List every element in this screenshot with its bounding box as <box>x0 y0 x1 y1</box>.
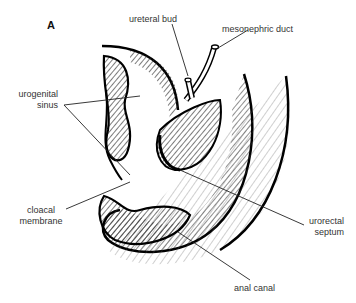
label-urogenital-sinus: urogenital sinus <box>14 89 58 111</box>
label-cloacal-membrane: cloacal membrane <box>18 205 64 227</box>
label-urorectal-septum: urorectal septum <box>300 216 344 238</box>
label-urogenital-sinus-line1: urogenital <box>14 89 58 100</box>
label-urorectal-septum-line1: urorectal <box>300 216 344 227</box>
embryo-cloaca-illustration <box>0 0 356 303</box>
label-cloacal-membrane-line2: membrane <box>18 216 64 227</box>
label-cloacal-membrane-line1: cloacal <box>18 205 64 216</box>
label-ureteral-bud: ureteral bud <box>129 14 177 25</box>
panel-label: A <box>47 19 55 31</box>
label-anal-canal: anal canal <box>234 283 275 294</box>
label-urogenital-sinus-line2: sinus <box>14 100 58 111</box>
label-mesonephric-duct: mesonephric duct <box>222 24 293 35</box>
label-urorectal-septum-line2: septum <box>300 227 344 238</box>
